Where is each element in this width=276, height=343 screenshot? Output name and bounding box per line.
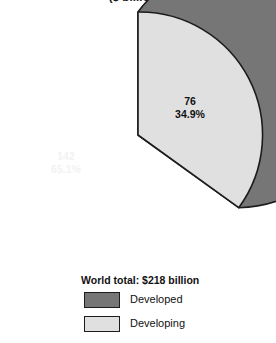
slice-percent-developed: 65.1% (38, 163, 94, 176)
legend-swatch-developed (84, 292, 120, 308)
legend-label-developed: Developed (130, 293, 183, 305)
world-total-label: World total: $218 billion (81, 274, 199, 286)
slice-label-developed: 142 65.1% (38, 150, 94, 175)
pie-chart-figure: ($ billions) 76 34.9% 142 65.1% World to… (0, 0, 276, 343)
slice-percent-developing: 34.9% (162, 108, 218, 121)
legend-swatch-developing (84, 316, 120, 332)
slice-value-developed: 142 (38, 150, 94, 163)
legend-label-developing: Developing (130, 317, 185, 329)
slice-value-developing: 76 (162, 95, 218, 108)
slice-label-developing: 76 34.9% (162, 95, 218, 120)
